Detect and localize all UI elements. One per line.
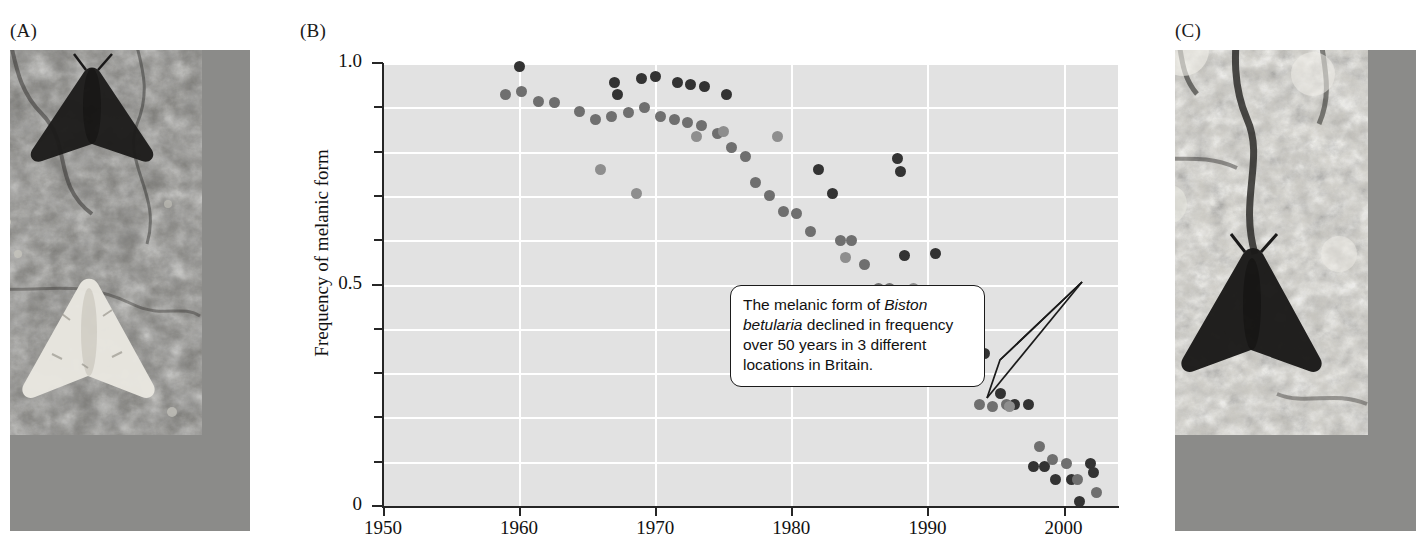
data-point-series-3 [772, 131, 783, 142]
data-point-series-2 [750, 177, 761, 188]
y-axis-title: Frequency of melanic form [311, 43, 333, 463]
data-point-series-1 [672, 77, 683, 88]
y-axis-tick [374, 239, 383, 241]
data-point-series-2 [655, 111, 666, 122]
y-axis-tick [374, 416, 383, 418]
data-point-series-1 [1028, 461, 1039, 472]
panel-a-label: (A) [10, 20, 37, 42]
x-axis-tick-label: 1960 [484, 517, 554, 539]
data-point-series-2 [805, 226, 816, 237]
x-axis-tick-label: 2000 [1029, 517, 1099, 539]
dark-bark-texture-icon [10, 50, 202, 435]
data-point-series-1 [514, 61, 525, 72]
gridline-horizontal [383, 240, 1118, 242]
x-axis-line [382, 506, 1119, 508]
data-point-series-1 [612, 89, 623, 100]
y-axis-tick [372, 505, 383, 507]
data-point-series-1 [813, 164, 824, 175]
callout-species-genus: Biston [884, 296, 927, 313]
y-axis-tick [374, 328, 383, 330]
y-axis-tick [374, 372, 383, 374]
data-point-series-1 [721, 89, 732, 100]
callout-box: The melanic form of Biston betularia dec… [730, 285, 985, 387]
x-axis-tick [791, 507, 793, 516]
data-point-series-1 [895, 166, 906, 177]
data-point-series-1 [1088, 467, 1099, 478]
data-point-series-2 [791, 208, 802, 219]
data-point-series-2 [835, 235, 846, 246]
panel-c-photo [1175, 50, 1416, 531]
data-point-series-3 [595, 164, 606, 175]
data-point-series-2 [859, 259, 870, 270]
data-point-series-2 [623, 107, 634, 118]
y-axis-tick [372, 62, 383, 64]
data-point-series-2 [500, 89, 511, 100]
y-axis-tick [374, 195, 383, 197]
y-axis-tick [374, 151, 383, 153]
chart-panel: Frequency of melanic form 00.51.0 195019… [300, 20, 1140, 540]
data-point-series-1 [930, 248, 941, 259]
data-point-series-2 [740, 151, 751, 162]
x-axis-tick [519, 507, 521, 516]
gridline-vertical [1064, 63, 1066, 506]
data-point-series-1 [699, 81, 710, 92]
data-point-series-2 [778, 206, 789, 217]
callout-text-3: over 50 years in 3 different [743, 336, 926, 353]
x-axis-tick [927, 507, 929, 516]
data-point-series-2 [1072, 474, 1083, 485]
data-point-series-1 [995, 388, 1006, 399]
data-point-series-2 [1091, 487, 1102, 498]
data-point-series-2 [669, 114, 680, 125]
y-axis-tick [374, 461, 383, 463]
panel-c-label: (C) [1175, 20, 1201, 42]
y-axis-tick [372, 284, 383, 286]
y-axis-tick-label: 1.0 [300, 50, 362, 72]
x-axis-tick [383, 507, 385, 516]
callout-text-4: locations in Britain. [743, 356, 873, 373]
data-point-series-1 [609, 77, 620, 88]
callout-species-epithet: betularia [743, 316, 802, 333]
data-point-series-2 [846, 235, 857, 246]
gridline-horizontal [383, 107, 1118, 109]
data-point-series-1 [1023, 399, 1034, 410]
data-point-series-2 [974, 399, 985, 410]
data-point-series-3 [1004, 401, 1015, 412]
data-point-series-3 [691, 131, 702, 142]
data-point-series-2 [516, 86, 527, 97]
x-axis-tick [1064, 507, 1066, 516]
data-point-series-2 [987, 401, 998, 412]
x-axis-tick-label: 1990 [892, 517, 962, 539]
x-axis-tick [655, 507, 657, 516]
gridline-vertical [519, 63, 521, 506]
data-point-series-1 [899, 250, 910, 261]
gridline-horizontal [383, 417, 1118, 419]
data-point-series-1 [827, 188, 838, 199]
lichen-bark-texture-icon [1175, 50, 1368, 435]
panel-a-photo [10, 50, 250, 531]
data-point-series-2 [606, 111, 617, 122]
data-point-series-1 [685, 79, 696, 90]
x-axis-tick-label: 1950 [348, 517, 418, 539]
data-point-series-1 [1050, 474, 1061, 485]
data-point-series-2 [726, 142, 737, 153]
gridline-horizontal [383, 462, 1118, 464]
x-axis-tick-label: 1980 [756, 517, 826, 539]
data-point-series-2 [682, 117, 693, 128]
y-axis-tick [374, 106, 383, 108]
data-point-series-2 [590, 114, 601, 125]
data-point-series-1 [636, 73, 647, 84]
data-point-series-2 [574, 106, 585, 117]
y-axis-tick-label: 0.5 [300, 272, 362, 294]
data-point-series-2 [764, 190, 775, 201]
callout-text-1: The melanic form of [743, 296, 884, 313]
data-point-series-2 [1061, 458, 1072, 469]
data-point-series-2 [639, 102, 650, 113]
y-axis-tick-label: 0 [300, 493, 362, 515]
gridline-vertical [655, 63, 657, 506]
gridline-horizontal [383, 196, 1118, 198]
x-axis-tick-label: 1970 [620, 517, 690, 539]
data-point-series-2 [533, 96, 544, 107]
data-point-series-2 [1034, 441, 1045, 452]
data-point-series-2 [696, 120, 707, 131]
data-point-series-3 [718, 126, 729, 137]
